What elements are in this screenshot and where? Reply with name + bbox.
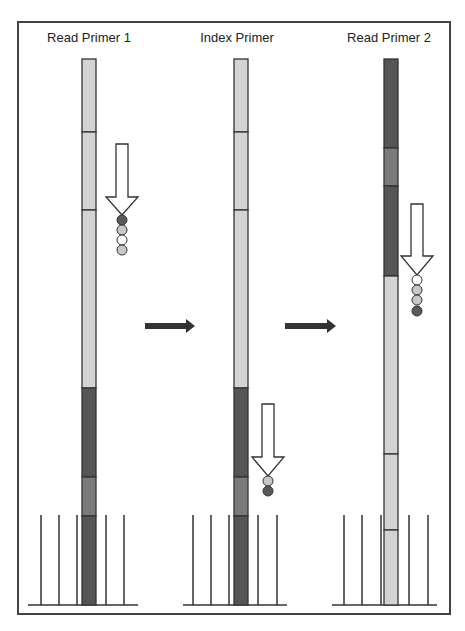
nucleotide-bead-light <box>263 476 273 486</box>
dna-strand-segment-dark <box>234 388 248 477</box>
dna-strand-segment-light <box>384 454 398 530</box>
dna-strand-segment-light <box>234 210 248 388</box>
nucleotide-bead-dark <box>412 306 422 316</box>
dna-strand-segment-light <box>384 530 398 605</box>
primer-arrow-icon <box>252 404 284 476</box>
dna-strand-segment-medium <box>234 477 248 516</box>
nucleotide-bead-white <box>412 275 422 285</box>
sequencing-primer-diagram: Read Primer 1 Index Primer Read Primer 2 <box>0 0 465 631</box>
dna-strand-segment-medium <box>384 148 398 186</box>
step-arrow-shaft <box>145 323 187 329</box>
dna-strand-segment-light <box>82 210 96 388</box>
nucleotide-bead-light <box>412 285 422 295</box>
nucleotide-bead-white <box>117 235 127 245</box>
step-arrow-icon <box>186 319 195 333</box>
dna-strand-segment-light <box>82 132 96 210</box>
dna-strand-segment-medium <box>82 477 96 516</box>
dna-strand-segment-dark <box>82 516 96 605</box>
dna-strand-segment-dark <box>384 186 398 276</box>
dna-strand-segment-dark <box>384 59 398 148</box>
dna-strand-segment-light <box>384 276 398 454</box>
dna-strand-segment-dark <box>82 388 96 477</box>
nucleotide-bead-light <box>412 295 422 305</box>
dna-strand-segment-dark <box>234 516 248 605</box>
primer-arrow-icon <box>106 144 138 215</box>
nucleotide-bead-light <box>117 225 127 235</box>
diagram-canvas <box>0 0 465 631</box>
step-arrow-icon <box>327 319 336 333</box>
dna-strand-segment-light <box>234 132 248 210</box>
step-arrow-shaft <box>285 323 328 329</box>
nucleotide-bead-light <box>117 245 127 255</box>
dna-strand-segment-light <box>234 59 248 132</box>
primer-arrow-icon <box>401 204 433 275</box>
dna-strand-segment-light <box>82 59 96 132</box>
nucleotide-bead-dark <box>117 215 127 225</box>
nucleotide-bead-dark <box>263 486 273 496</box>
